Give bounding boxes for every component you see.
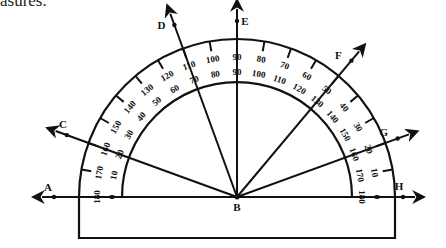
inner-scale-number: 10 [108, 170, 119, 181]
outer-scale-number: 100 [205, 53, 221, 65]
inner-scale-number: 50 [150, 94, 164, 108]
ray-d: D [157, 14, 237, 197]
outer-scale-number: 40 [337, 100, 351, 114]
point-dot [349, 58, 353, 62]
ray-h: H [237, 180, 415, 199]
point-dot [235, 19, 239, 23]
inner-scale-number: 120 [291, 81, 308, 97]
ray-line [170, 14, 237, 197]
tick-mark [210, 41, 212, 51]
tick-mark [135, 76, 141, 84]
point-dot [65, 133, 69, 137]
outer-scale-number: 150 [108, 118, 124, 135]
tick-mark [365, 118, 374, 123]
inner-scale-number: 140 [325, 108, 342, 125]
point-label-g: G [379, 126, 388, 138]
vertex-dot [235, 195, 240, 200]
point-label-h: H [395, 180, 404, 192]
protractor-diagram: 0102030405060708090100110120130140150160… [0, 0, 446, 248]
outer-scale-number: 30 [352, 121, 365, 134]
point-dot [395, 136, 399, 140]
tick-mark [100, 118, 109, 123]
inner-scale-number: 60 [168, 82, 181, 95]
outer-scale-number: 70 [279, 59, 291, 72]
tick-mark [311, 60, 316, 69]
point-dot [401, 195, 405, 199]
point-dot [52, 195, 56, 199]
point-label-a: A [44, 181, 52, 193]
point-dot [172, 23, 176, 27]
ray-e: E [235, 9, 249, 197]
outer-scale-number: 60 [301, 69, 314, 82]
tick-mark [350, 95, 358, 101]
point-label-d: D [157, 19, 165, 31]
outer-scale-number: 120 [159, 68, 176, 84]
tick-mark [158, 60, 163, 69]
tick-mark [383, 170, 393, 172]
inner-scale-number: 170 [354, 168, 366, 184]
outer-scale-number: 170 [93, 165, 105, 181]
inner-scale-number: 80 [210, 68, 221, 79]
inner-scale-number: 30 [122, 128, 135, 141]
inner-scale-number: 150 [337, 126, 353, 143]
tick-mark [288, 49, 291, 58]
tick-mark [81, 170, 91, 172]
outer-scale-number: 140 [122, 98, 139, 115]
ray-g: G [237, 126, 409, 197]
inner-scale-number: 100 [251, 68, 267, 80]
tick-mark [263, 41, 265, 51]
outer-scale-number: 80 [256, 53, 267, 64]
inner-scale-number: 110 [272, 73, 288, 87]
point-label-c: C [59, 118, 67, 130]
outer-scale-number: 10 [369, 167, 380, 178]
tick-mark [116, 95, 124, 101]
inner-scale-number: 40 [135, 110, 149, 124]
point-label-e: E [241, 15, 248, 27]
ray-c: C [56, 118, 237, 197]
ray-a: A [42, 181, 237, 199]
point-label-f: F [335, 49, 342, 61]
vertex-label-b: B [233, 201, 241, 213]
